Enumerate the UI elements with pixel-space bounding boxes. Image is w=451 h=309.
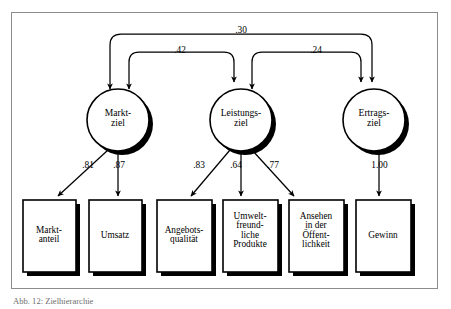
latent-label-ertragsziel-line-2: ziel (342, 118, 406, 128)
loading-value-leistungsziel-angebotsqualitaet: .83 (186, 160, 212, 170)
indicator-label-ansehen-line-4: lichkeit (287, 240, 345, 249)
latent-label-leistungsziel-line-2: ziel (209, 118, 273, 128)
indicator-label-angebotsqualitaet-line-2: qualität (155, 235, 213, 244)
indicator-label-ansehen: Ansehen in der Öffent- lichkeit (287, 212, 345, 250)
indicator-label-angebotsqualitaet: Angebots- qualität (155, 226, 213, 245)
loading-value-marktziel-umsatz: .87 (106, 160, 132, 170)
indicator-label-marktanteil: Markt- anteil (20, 226, 78, 245)
indicator-label-gewinn: Gewinn (354, 231, 412, 240)
loading-value-ertragsziel-gewinn: 1.00 (364, 160, 395, 170)
indicator-label-umwelt-line-4: Produkte (221, 240, 279, 249)
correlation-value-leistung-ertrag: .24 (303, 45, 329, 55)
indicator-label-umweltfreundliche-produkte: Umwelt- freund- liche Produkte (221, 212, 279, 250)
loading-value-marktziel-marktanteil: .81 (75, 160, 101, 170)
figure-root: Markt- ziel Leistungs- ziel Ertrags- zie… (0, 0, 451, 309)
latent-label-marktziel-line-2: ziel (86, 118, 150, 128)
indicator-label-umsatz: Umsatz (86, 231, 144, 240)
indicator-label-gewinn-line-1: Gewinn (354, 231, 412, 240)
loading-value-leistungsziel-umwelt: .64 (223, 160, 249, 170)
indicator-label-marktanteil-line-2: anteil (20, 235, 78, 244)
latent-label-ertragsziel: Ertrags- ziel (342, 108, 406, 128)
correlation-value-markt-ertrag: .30 (228, 25, 254, 35)
correlation-value-markt-leistung: .42 (167, 45, 193, 55)
latent-label-marktziel: Markt- ziel (86, 108, 150, 128)
latent-label-leistungsziel: Leistungs- ziel (209, 108, 273, 128)
indicator-label-umsatz-line-1: Umsatz (86, 231, 144, 240)
figure-caption: Abb. 12: Zielhierarchie (13, 296, 443, 309)
loading-value-leistungsziel-ansehen: .77 (260, 160, 286, 170)
